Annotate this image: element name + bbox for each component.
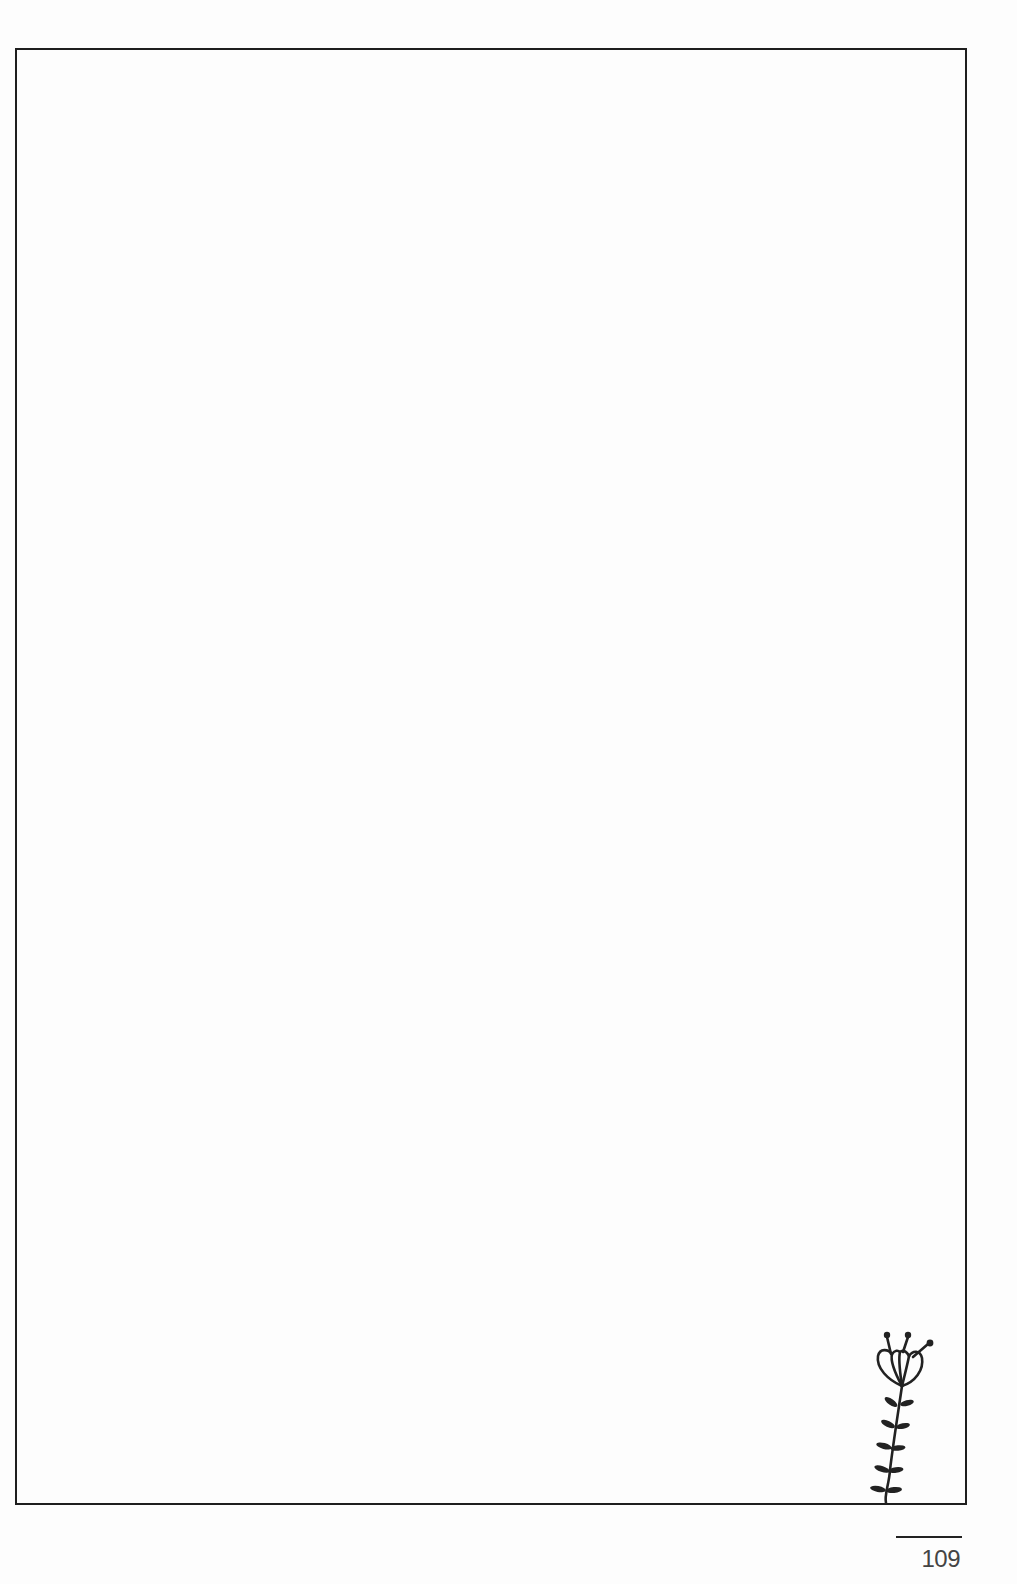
page-number-rule — [896, 1536, 962, 1538]
journal-page: 109 — [0, 0, 1017, 1584]
page-number: 109 — [921, 1545, 960, 1573]
page-border-frame — [15, 48, 967, 1505]
